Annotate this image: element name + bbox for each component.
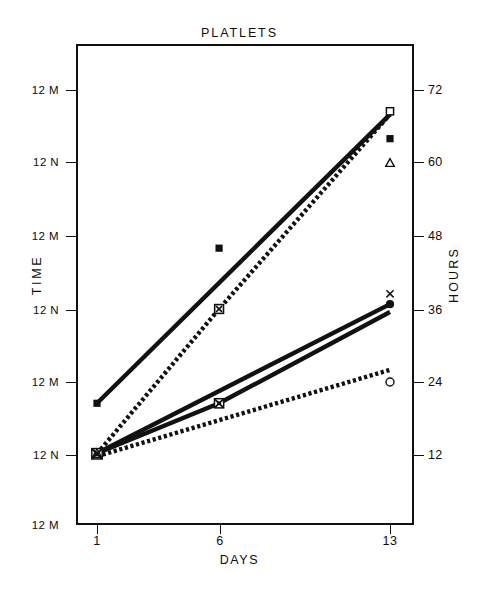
y-axis-tick-right (412, 382, 424, 383)
y-axis-tick-label-right: 24 (428, 375, 443, 389)
y-axis-tick-left (66, 90, 78, 91)
y-axis-tick-label-left: 12 N (33, 304, 59, 316)
y-axis-tick-label-left: 12 N (33, 156, 59, 168)
y-axis-tick-right (412, 310, 424, 311)
y-axis-tick-right (412, 455, 424, 456)
y-axis-tick-label-right: 36 (428, 303, 443, 317)
y-axis-tick-left (66, 236, 78, 237)
x-axis-tick (97, 523, 98, 534)
y-axis-tick-label-left: 12 M (32, 230, 59, 242)
y-axis-tick-left (66, 382, 78, 383)
y-axis-tick-left (66, 310, 78, 311)
x-axis-tick (390, 523, 391, 534)
y-axis-tick-right (412, 162, 424, 163)
y-axis-tick-right (412, 236, 424, 237)
chart-title: PLATLETS (0, 26, 479, 40)
chart-figure: PLATLETS TIME HOURS DAYS 12 M12 N12 M12 … (0, 0, 479, 591)
y-axis-tick-label-right: 12 (428, 448, 443, 462)
y-axis-tick-label-right: 48 (428, 229, 443, 243)
y-axis-tick-label-left: 12 M (32, 376, 59, 388)
y-axis-tick-label-left: 12 M (32, 84, 59, 96)
y-axis-title-right: HOURS (447, 230, 461, 320)
x-axis-tick (220, 523, 221, 534)
y-axis-tick-left (66, 455, 78, 456)
y-axis-tick-label-right: 60 (428, 155, 443, 169)
y-axis-tick-label-left: 12 N (33, 449, 59, 461)
plot-area-frame (76, 44, 414, 525)
x-axis-tick-label: 1 (93, 534, 100, 548)
x-axis-tick-label: 13 (383, 534, 398, 548)
y-axis-tick-label-right: 72 (428, 83, 443, 97)
y-axis-tick-label-left: 12 M (32, 519, 59, 531)
x-axis-tick-label: 6 (216, 534, 223, 548)
y-axis-tick-left (66, 162, 78, 163)
y-axis-tick-right (412, 90, 424, 91)
x-axis-title: DAYS (0, 553, 479, 567)
